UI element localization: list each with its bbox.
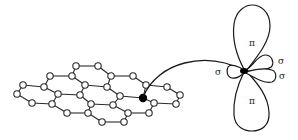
carbon-atom	[49, 101, 55, 107]
sigma-left-label: σ	[215, 67, 221, 77]
carbon-atom	[121, 119, 127, 125]
carbon-atom	[73, 63, 79, 69]
carbon-atom	[125, 110, 131, 116]
carbon-atom	[41, 84, 47, 90]
carbon-atom	[69, 73, 75, 79]
carbon-atom	[130, 73, 136, 79]
carbon-atom	[85, 110, 91, 116]
carbon-atom	[110, 102, 116, 108]
orbital-diagram: π π σ σ σ	[215, 5, 285, 131]
carbon-atom	[173, 101, 179, 107]
graphene-orbital-diagram: π π σ σ σ	[0, 0, 298, 140]
carbon-atom	[82, 82, 88, 88]
pi-upper-label: π	[249, 38, 255, 48]
sigma-upper-right-label: σ	[278, 56, 284, 66]
carbon-atom	[177, 92, 183, 98]
carbon-atom	[104, 84, 110, 90]
orbital-center-atom	[240, 68, 248, 74]
carbon-atom	[88, 101, 94, 107]
carbon-atom	[14, 91, 20, 97]
carbon-atom	[146, 110, 152, 116]
carbon-atom	[29, 100, 35, 106]
carbon-atom	[99, 119, 105, 125]
carbon-atom	[77, 92, 83, 98]
carbon-atom	[95, 63, 101, 69]
carbon-atom	[108, 73, 114, 79]
carbon-atom	[47, 73, 53, 79]
sigma-lower-right-label: σ	[279, 71, 285, 81]
lattice-atoms	[14, 63, 183, 125]
lattice-bonds	[17, 66, 180, 122]
pi-lower-label: π	[249, 96, 255, 106]
carbon-atom	[151, 100, 157, 106]
carbon-atom	[20, 82, 26, 88]
carbon-atom	[117, 93, 123, 99]
carbon-atom	[164, 84, 170, 90]
carbon-atom	[64, 110, 70, 116]
carbon-atom	[55, 91, 61, 97]
